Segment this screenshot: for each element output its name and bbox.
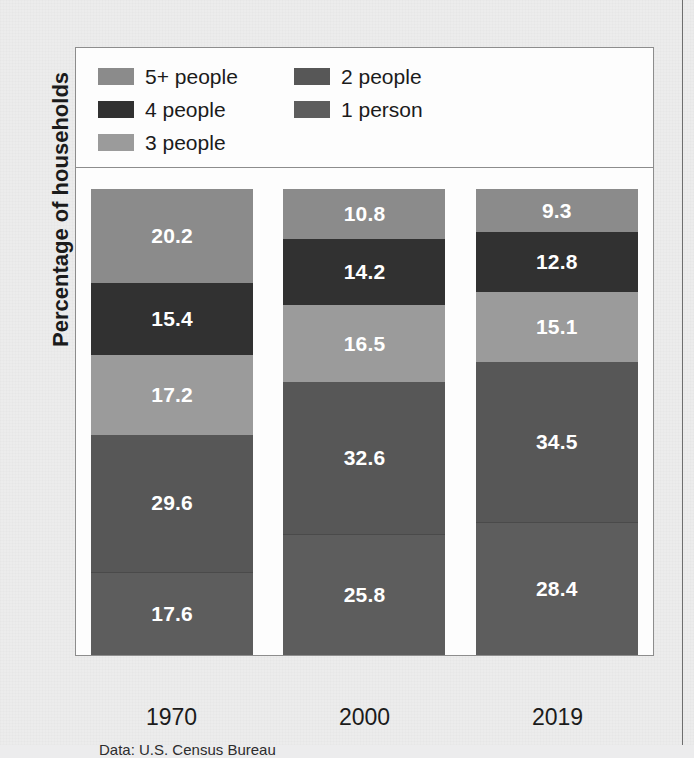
- chart-legend: 5+ people 2 people 4 people 1 person 3 p…: [75, 47, 654, 168]
- bar-segment-value-label: 28.4: [536, 577, 578, 601]
- legend-item-label: 4 people: [145, 99, 226, 120]
- stacked-bar-figure: Percentage of households 5+ people 2 peo…: [75, 47, 654, 656]
- x-axis-tick-label: 1970: [91, 704, 253, 731]
- bar-segment: 20.2: [91, 189, 253, 283]
- source-note: Data: U.S. Census Bureau: [99, 741, 276, 758]
- legend-item-label: 3 people: [145, 132, 226, 153]
- bar-segment-value-label: 15.4: [151, 307, 193, 331]
- bar-segment: 14.2: [283, 239, 445, 305]
- bar-segment: 29.6: [91, 435, 253, 573]
- legend-item-label: 5+ people: [145, 66, 238, 87]
- x-axis-labels: 197020002019: [75, 704, 654, 731]
- bar-column-2000: 10.814.216.532.625.8: [283, 189, 445, 655]
- bar-segment-value-label: 9.3: [542, 199, 572, 223]
- legend-item-4-people[interactable]: 4 people: [98, 99, 294, 120]
- bar-segment: 32.6: [283, 382, 445, 534]
- legend-swatch-icon: [98, 101, 134, 118]
- bar-segment-value-label: 12.8: [536, 250, 578, 274]
- legend-grid: 5+ people 2 people 4 people 1 person 3 p…: [98, 60, 490, 159]
- x-axis-tick-label: 2019: [477, 704, 639, 731]
- legend-swatch-icon: [98, 68, 134, 85]
- bar-column-1970: 20.215.417.229.617.6: [91, 189, 253, 655]
- legend-item-5plus-people[interactable]: 5+ people: [98, 66, 294, 87]
- y-axis-title: Percentage of households: [48, 72, 74, 347]
- bar-segment: 15.1: [476, 292, 638, 362]
- bar-segment-value-label: 14.2: [344, 260, 386, 284]
- bar-segment-value-label: 15.1: [536, 315, 578, 339]
- bar-segment: 16.5: [283, 305, 445, 382]
- bar-segment-value-label: 20.2: [151, 224, 193, 248]
- bar-segment-value-label: 34.5: [536, 430, 578, 454]
- legend-item-2-people[interactable]: 2 people: [294, 66, 490, 87]
- page-column-rule: [682, 0, 683, 745]
- legend-item-3-people[interactable]: 3 people: [98, 132, 294, 153]
- bar-segment: 28.4: [476, 522, 638, 655]
- bar-segment-value-label: 10.8: [344, 202, 386, 226]
- bar-segment: 34.5: [476, 362, 638, 522]
- chart-plot-area: 20.215.417.229.617.610.814.216.532.625.8…: [75, 168, 654, 656]
- legend-swatch-icon: [294, 101, 330, 118]
- bar-segment: 9.3: [476, 189, 638, 232]
- bar-segment-value-label: 25.8: [344, 583, 386, 607]
- legend-item-label: 1 person: [341, 99, 423, 120]
- bar-segment: 25.8: [283, 534, 445, 655]
- legend-swatch-icon: [294, 68, 330, 85]
- legend-item-1-person[interactable]: 1 person: [294, 99, 490, 120]
- bar-segment-value-label: 29.6: [151, 491, 193, 515]
- bar-column-2019: 9.312.815.134.528.4: [476, 189, 638, 655]
- bars-container: 20.215.417.229.617.610.814.216.532.625.8…: [76, 189, 653, 655]
- bar-segment: 10.8: [283, 189, 445, 239]
- bar-segment: 15.4: [91, 283, 253, 355]
- bar-segment-value-label: 32.6: [344, 446, 386, 470]
- bar-segment-value-label: 17.2: [151, 383, 193, 407]
- bar-segment: 17.6: [91, 572, 253, 655]
- bar-segment-value-label: 17.6: [151, 602, 193, 626]
- bar-segment-value-label: 16.5: [344, 332, 386, 356]
- bar-segment: 17.2: [91, 355, 253, 435]
- legend-item-label: 2 people: [341, 66, 422, 87]
- x-axis-tick-label: 2000: [284, 704, 446, 731]
- bar-segment: 12.8: [476, 232, 638, 291]
- legend-swatch-icon: [98, 134, 134, 151]
